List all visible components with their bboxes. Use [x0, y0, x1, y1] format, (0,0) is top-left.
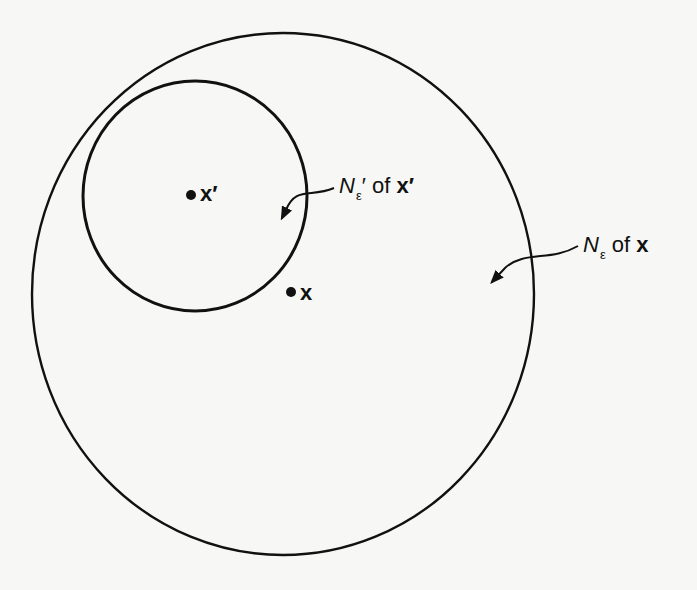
- point-x-dot: [286, 287, 296, 297]
- outer-neighborhood-circle: [32, 33, 534, 555]
- outer-neighborhood-label: Nε of x: [583, 234, 649, 256]
- inner-neighborhood-label: Nε′ of x′: [339, 175, 414, 197]
- outer-label-point: x: [636, 232, 648, 257]
- neighborhood-diagram: [0, 0, 697, 590]
- inner-label-symbol: N: [339, 173, 355, 198]
- inner-label-subscript: ε: [356, 188, 362, 203]
- point-x-prime-dot: [186, 190, 196, 200]
- point-x-prime-label: x′: [200, 183, 218, 205]
- outer-label-subscript: ε: [600, 247, 606, 262]
- outer-label-of: of: [606, 232, 637, 257]
- outer-label-symbol: N: [583, 232, 599, 257]
- outer-label-arrow: [492, 246, 578, 282]
- inner-label-of: of: [366, 173, 397, 198]
- inner-label-point: x′: [396, 173, 414, 198]
- point-x-label: x: [300, 282, 312, 304]
